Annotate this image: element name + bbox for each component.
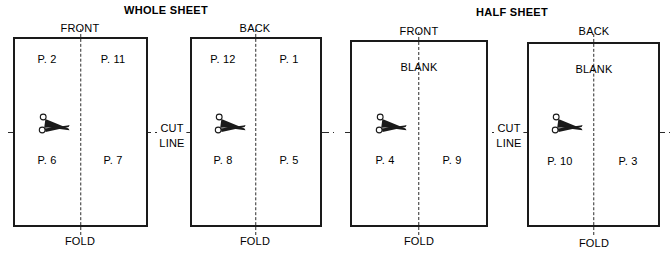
- page-cell-half-back-top-center: BLANK: [575, 63, 612, 75]
- scissors-icon: [551, 112, 585, 138]
- page-cell-whole-back-top-left: P. 12: [210, 53, 235, 65]
- sheet-side-label-half-back: BACK: [579, 25, 610, 37]
- group-title-half-sheet: HALF SHEET: [476, 6, 548, 18]
- cut-caption-word-cut: CUT: [496, 121, 521, 136]
- page-imposition-diagram: WHOLE SHEET HALF SHEET CUT LINE CUT LINE…: [0, 0, 670, 260]
- page-cell-whole-front-bottom-right: P. 7: [104, 154, 123, 166]
- page-cell-whole-back-top-right: P. 1: [280, 53, 299, 65]
- cut-line-caption-whole: CUT LINE: [157, 121, 186, 151]
- fold-label-half-front: FOLD: [404, 235, 434, 247]
- cut-caption-word-cut: CUT: [159, 121, 184, 136]
- scissors-icon: [375, 112, 409, 138]
- page-cell-whole-front-top-right: P. 11: [101, 53, 125, 65]
- fold-label-whole-front: FOLD: [65, 235, 95, 247]
- fold-label-half-back: FOLD: [579, 237, 609, 249]
- page-cell-half-back-bottom-right: P. 3: [619, 155, 638, 167]
- page-cell-whole-front-bottom-left: P. 6: [38, 154, 57, 166]
- fold-label-whole-back: FOLD: [240, 235, 270, 247]
- page-cell-whole-back-bottom-left: P. 8: [214, 154, 233, 166]
- page-cell-whole-back-bottom-right: P. 5: [280, 154, 299, 166]
- page-cell-half-front-bottom-right: P. 9: [443, 154, 462, 166]
- cut-caption-word-line: LINE: [159, 136, 184, 151]
- fold-line-whole-back: [255, 29, 256, 235]
- page-cell-half-front-top-center: BLANK: [400, 61, 437, 73]
- page-cell-half-front-bottom-left: P. 4: [376, 154, 395, 166]
- fold-line-whole-front: [80, 29, 81, 235]
- scissors-icon: [214, 112, 248, 138]
- cut-caption-word-line: LINE: [496, 136, 521, 151]
- group-title-whole-sheet: WHOLE SHEET: [124, 4, 208, 16]
- page-cell-whole-front-top-left: P. 2: [38, 53, 57, 65]
- sheet-panel-whole-front: [13, 37, 148, 227]
- page-cell-half-back-bottom-left: P. 10: [547, 155, 572, 167]
- sheet-panel-whole-back: [190, 37, 322, 227]
- cut-line-caption-half: CUT LINE: [494, 121, 523, 151]
- scissors-icon: [38, 112, 72, 138]
